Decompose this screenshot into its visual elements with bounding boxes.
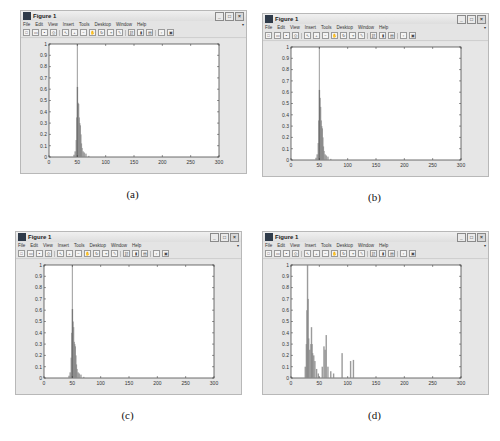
menu-tools[interactable]: Tools bbox=[74, 242, 85, 249]
menu-tools[interactable]: Tools bbox=[321, 24, 332, 31]
print-icon[interactable]: ⎙ bbox=[292, 250, 299, 257]
dock-arrow-icon[interactable]: ▾ bbox=[237, 242, 239, 249]
data-cursor-icon[interactable]: ⌖ bbox=[349, 32, 356, 39]
save-icon[interactable]: ▪ bbox=[41, 29, 48, 36]
show-plot-tools-icon[interactable]: ▣ bbox=[409, 250, 416, 257]
menu-desktop[interactable]: Desktop bbox=[95, 21, 112, 28]
menu-insert[interactable]: Insert bbox=[305, 24, 316, 31]
open-file-icon[interactable]: ▭ bbox=[27, 250, 34, 257]
colorbar-icon[interactable]: ▮ bbox=[379, 32, 386, 39]
menu-insert[interactable]: Insert bbox=[305, 242, 316, 249]
link-icon[interactable]: ⛓ bbox=[370, 250, 377, 257]
brush-icon[interactable]: ✎ bbox=[116, 29, 123, 36]
new-figure-icon[interactable]: □ bbox=[23, 29, 30, 36]
menu-edit[interactable]: Edit bbox=[277, 24, 285, 31]
new-figure-icon[interactable]: □ bbox=[265, 32, 272, 39]
minimize-button[interactable]: _ bbox=[215, 12, 224, 21]
zoom-in-icon[interactable]: + bbox=[66, 250, 73, 257]
menu-insert[interactable]: Insert bbox=[63, 21, 74, 28]
menu-desktop[interactable]: Desktop bbox=[337, 24, 354, 31]
menu-view[interactable]: View bbox=[290, 242, 300, 249]
data-cursor-icon[interactable]: ⌖ bbox=[349, 250, 356, 257]
hide-plot-tools-icon[interactable]: ▫ bbox=[158, 29, 165, 36]
link-icon[interactable]: ⛓ bbox=[128, 29, 135, 36]
print-icon[interactable]: ⎙ bbox=[45, 250, 52, 257]
select-arrow-icon[interactable]: ↖ bbox=[304, 250, 311, 257]
zoom-in-icon[interactable]: + bbox=[313, 250, 320, 257]
save-icon[interactable]: ▪ bbox=[36, 250, 43, 257]
menu-window[interactable]: Window bbox=[116, 21, 132, 28]
close-button[interactable]: × bbox=[230, 233, 239, 242]
menu-help[interactable]: Help bbox=[379, 24, 388, 31]
menu-file[interactable]: File bbox=[265, 242, 272, 249]
hide-plot-tools-icon[interactable]: ▫ bbox=[400, 32, 407, 39]
close-button[interactable]: × bbox=[235, 12, 244, 21]
menu-window[interactable]: Window bbox=[358, 24, 374, 31]
legend-icon[interactable]: ▤ bbox=[146, 29, 153, 36]
minimize-button[interactable]: _ bbox=[457, 15, 466, 24]
menu-help[interactable]: Help bbox=[379, 242, 388, 249]
select-arrow-icon[interactable]: ↖ bbox=[57, 250, 64, 257]
legend-icon[interactable]: ▤ bbox=[388, 250, 395, 257]
minimize-button[interactable]: _ bbox=[457, 233, 466, 242]
menu-desktop[interactable]: Desktop bbox=[337, 242, 354, 249]
zoom-in-icon[interactable]: + bbox=[313, 32, 320, 39]
menu-file[interactable]: File bbox=[18, 242, 25, 249]
menu-help[interactable]: Help bbox=[137, 21, 146, 28]
menu-edit[interactable]: Edit bbox=[277, 242, 285, 249]
menu-desktop[interactable]: Desktop bbox=[90, 242, 107, 249]
zoom-out-icon[interactable]: − bbox=[322, 250, 329, 257]
link-icon[interactable]: ⛓ bbox=[123, 250, 130, 257]
show-plot-tools-icon[interactable]: ▣ bbox=[167, 29, 174, 36]
link-icon[interactable]: ⛓ bbox=[370, 32, 377, 39]
dock-arrow-icon[interactable]: ▾ bbox=[484, 242, 486, 249]
new-figure-icon[interactable]: □ bbox=[18, 250, 25, 257]
hide-plot-tools-icon[interactable]: ▫ bbox=[400, 250, 407, 257]
rotate-3d-icon[interactable]: ↻ bbox=[340, 32, 347, 39]
menu-window[interactable]: Window bbox=[358, 242, 374, 249]
select-arrow-icon[interactable]: ↖ bbox=[304, 32, 311, 39]
open-file-icon[interactable]: ▭ bbox=[32, 29, 39, 36]
pan-icon[interactable]: ✋ bbox=[84, 250, 91, 257]
menu-edit[interactable]: Edit bbox=[35, 21, 43, 28]
menu-help[interactable]: Help bbox=[132, 242, 141, 249]
data-cursor-icon[interactable]: ⌖ bbox=[107, 29, 114, 36]
legend-icon[interactable]: ▤ bbox=[388, 32, 395, 39]
maximize-button[interactable]: □ bbox=[467, 233, 476, 242]
print-icon[interactable]: ⎙ bbox=[50, 29, 57, 36]
zoom-out-icon[interactable]: − bbox=[322, 32, 329, 39]
pan-icon[interactable]: ✋ bbox=[331, 250, 338, 257]
menu-view[interactable]: View bbox=[48, 21, 58, 28]
rotate-3d-icon[interactable]: ↻ bbox=[98, 29, 105, 36]
maximize-button[interactable]: □ bbox=[225, 12, 234, 21]
menu-file[interactable]: File bbox=[23, 21, 30, 28]
open-file-icon[interactable]: ▭ bbox=[274, 250, 281, 257]
menu-insert[interactable]: Insert bbox=[58, 242, 69, 249]
brush-icon[interactable]: ✎ bbox=[358, 32, 365, 39]
dock-arrow-icon[interactable]: ▾ bbox=[242, 21, 244, 28]
pan-icon[interactable]: ✋ bbox=[89, 29, 96, 36]
rotate-3d-icon[interactable]: ↻ bbox=[93, 250, 100, 257]
menu-tools[interactable]: Tools bbox=[79, 21, 90, 28]
print-icon[interactable]: ⎙ bbox=[292, 32, 299, 39]
menu-window[interactable]: Window bbox=[111, 242, 127, 249]
zoom-out-icon[interactable]: − bbox=[75, 250, 82, 257]
colorbar-icon[interactable]: ▮ bbox=[132, 250, 139, 257]
legend-icon[interactable]: ▤ bbox=[141, 250, 148, 257]
menu-view[interactable]: View bbox=[43, 242, 53, 249]
close-button[interactable]: × bbox=[477, 15, 486, 24]
save-icon[interactable]: ▪ bbox=[283, 250, 290, 257]
zoom-out-icon[interactable]: − bbox=[80, 29, 87, 36]
open-file-icon[interactable]: ▭ bbox=[274, 32, 281, 39]
menu-view[interactable]: View bbox=[290, 24, 300, 31]
hide-plot-tools-icon[interactable]: ▫ bbox=[153, 250, 160, 257]
colorbar-icon[interactable]: ▮ bbox=[137, 29, 144, 36]
dock-arrow-icon[interactable]: ▾ bbox=[484, 24, 486, 31]
rotate-3d-icon[interactable]: ↻ bbox=[340, 250, 347, 257]
maximize-button[interactable]: □ bbox=[467, 15, 476, 24]
brush-icon[interactable]: ✎ bbox=[111, 250, 118, 257]
data-cursor-icon[interactable]: ⌖ bbox=[102, 250, 109, 257]
show-plot-tools-icon[interactable]: ▣ bbox=[162, 250, 169, 257]
show-plot-tools-icon[interactable]: ▣ bbox=[409, 32, 416, 39]
pan-icon[interactable]: ✋ bbox=[331, 32, 338, 39]
